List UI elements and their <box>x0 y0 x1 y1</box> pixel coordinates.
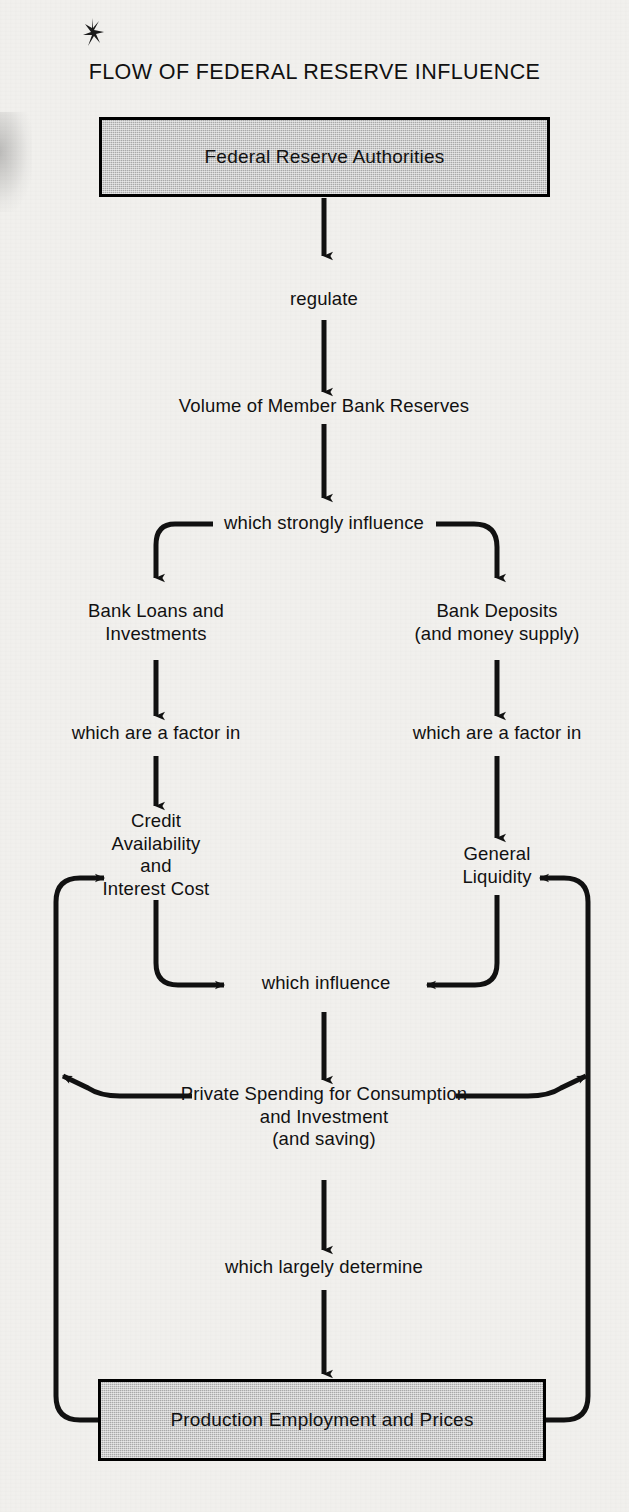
node-bank-loans-and-investments[interactable]: Bank Loans and Investments <box>31 600 281 645</box>
edge-label-which-are-a-factor-in-left: which are a factor in <box>31 722 281 745</box>
page-title: FLOW OF FEDERAL RESERVE INFLUENCE <box>0 60 629 85</box>
node-volume-of-member-bank-reserves[interactable]: Volume of Member Bank Reserves <box>114 395 534 418</box>
edge-label-which-are-a-factor-in-right: which are a factor in <box>372 722 622 745</box>
node-federal-reserve-authorities[interactable]: Federal Reserve Authorities <box>99 117 550 197</box>
edge-liquidity-to-influence <box>427 895 497 985</box>
node-label-production-employment-and-prices: Production Employment and Prices <box>170 1409 473 1431</box>
node-credit-availability-and-interest-cost[interactable]: Credit Availability and Interest Cost <box>41 810 271 900</box>
feedback-rail-left <box>56 878 104 1420</box>
node-general-liquidity[interactable]: General Liquidity <box>397 843 597 888</box>
edge-label-which-largely-determine: which largely determine <box>174 1256 474 1279</box>
edge-strongly-to-deposits <box>436 524 497 578</box>
node-production-employment-and-prices[interactable]: Production Employment and Prices <box>98 1379 546 1461</box>
edge-label-which-strongly-influence: which strongly influence <box>212 512 436 535</box>
node-label-federal-reserve-authorities: Federal Reserve Authorities <box>205 146 445 168</box>
edge-strongly-to-loans <box>156 524 213 578</box>
diagram-page: FLOW OF FEDERAL RESERVE INFLUENCE <box>0 0 629 1512</box>
edge-credit-to-influence <box>156 900 224 985</box>
node-bank-deposits-and-money-supply[interactable]: Bank Deposits (and money supply) <box>372 600 622 645</box>
edge-label-regulate: regulate <box>194 288 454 311</box>
connector-layer <box>0 0 629 1512</box>
handwritten-ink-mark-icon <box>80 16 106 50</box>
node-private-spending-for-consumption-and-investment[interactable]: Private Spending for Consumption and Inv… <box>114 1083 534 1151</box>
edge-label-which-influence: which influence <box>228 972 424 995</box>
feedback-rail-right <box>540 878 588 1420</box>
